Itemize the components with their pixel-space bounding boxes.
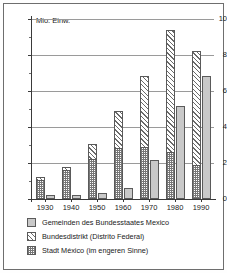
legend-item-label: Stadt México (im engeren Sinne) [42, 246, 148, 255]
y-axis-minor-tick [29, 73, 31, 74]
gridline [32, 91, 214, 92]
bar-stadt-mexico [88, 159, 97, 200]
y-axis-minor-tick [29, 109, 31, 110]
x-axis-tick-label: 1940 [57, 203, 85, 212]
bar-bundesdistrikt [166, 30, 175, 199]
x-axis-tick [123, 199, 124, 202]
legend-item: Stadt México (im engeren Sinne) [27, 244, 212, 257]
bar-bundesdistrikt [192, 51, 201, 199]
x-axis-line [28, 199, 216, 200]
hatch-swatch [27, 232, 36, 241]
bar-gemeinden [202, 76, 211, 199]
x-axis-tick-label: 1990 [187, 203, 215, 212]
y-axis-tick [28, 199, 32, 200]
bar-gemeinden [46, 195, 55, 199]
bar-bundesdistrikt [88, 144, 97, 199]
y-axis-minor-tick [29, 37, 31, 38]
y-axis-minor-tick [29, 145, 31, 146]
x-axis-tick-label: 1960 [109, 203, 137, 212]
bar-stadt-mexico [140, 147, 149, 199]
bar-gemeinden [124, 188, 133, 199]
bar-bundesdistrikt [140, 76, 149, 199]
x-axis-tick [175, 199, 176, 202]
bar-bundesdistrikt [36, 177, 45, 200]
x-axis-tick-label: 1950 [83, 203, 111, 212]
x-axis-tick-label: 1980 [161, 203, 189, 212]
bar-gemeinden [98, 193, 107, 199]
legend-item-label: Gemeinden des Bundesstaates Mexico [42, 218, 169, 227]
legend-item-label: Bundesdistrikt (Distrito Federal) [42, 232, 144, 241]
x-axis-tick-label: 1930 [31, 203, 59, 212]
bar-gemeinden [72, 195, 81, 200]
gridline [32, 19, 214, 20]
bar-stadt-mexico [62, 170, 71, 199]
chart-legend: Gemeinden des Bundesstaates Mexico Bunde… [27, 216, 212, 258]
legend-item: Gemeinden des Bundesstaates Mexico [27, 216, 212, 229]
chart-figure: Mio. Einw. 0246810 193019401950196019701… [0, 0, 227, 273]
bar-stadt-mexico [36, 180, 45, 199]
x-axis-tick-label: 1970 [135, 203, 163, 212]
gridline [32, 163, 214, 164]
checker-swatch [27, 246, 36, 255]
x-axis-tick [71, 199, 72, 202]
x-axis-tick [45, 199, 46, 202]
x-axis-tick [149, 199, 150, 202]
bar-bundesdistrikt [62, 167, 71, 199]
bar-stadt-mexico [166, 152, 175, 199]
legend-item: Bundesdistrikt (Distrito Federal) [27, 230, 212, 243]
x-axis-tick [201, 199, 202, 202]
bar-gemeinden [176, 106, 185, 199]
x-axis-tick [97, 199, 98, 202]
bar-stadt-mexico [114, 148, 123, 199]
bar-gemeinden [150, 160, 159, 199]
bar-stadt-mexico [192, 165, 201, 199]
y-axis-minor-tick [29, 181, 31, 182]
gridline [32, 55, 214, 56]
gridline [32, 127, 214, 128]
solid-grey-swatch [27, 218, 36, 227]
bar-bundesdistrikt [114, 111, 123, 199]
plot-area [32, 19, 214, 199]
